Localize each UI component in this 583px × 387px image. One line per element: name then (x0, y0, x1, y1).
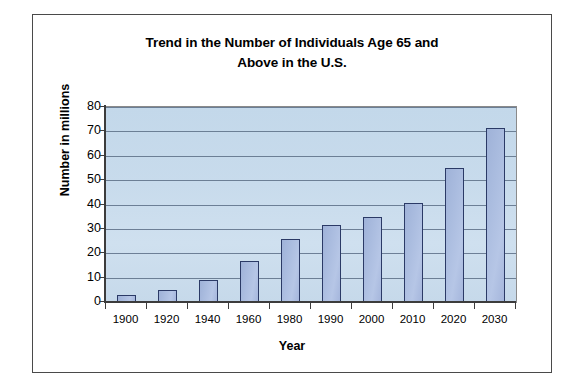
x-axis-tick-label: 2010 (392, 313, 433, 325)
chart-title-line-1: Trend in the Number of Individuals Age 6… (33, 33, 551, 53)
y-axis-tick-mark (99, 204, 104, 205)
y-axis-tick-label: 70 (75, 123, 101, 137)
bar-slot (352, 107, 393, 302)
x-axis-tick-label: 1940 (187, 313, 228, 325)
bar-slot (147, 107, 188, 302)
y-axis-tick-mark (99, 155, 104, 156)
bar-1960[interactable] (240, 261, 259, 302)
y-axis-tick-label: 80 (75, 99, 101, 113)
y-axis-tick-mark (99, 228, 104, 229)
x-axis-tick-mark (269, 303, 270, 309)
y-axis-tick-mark (99, 179, 104, 180)
y-axis-title: Number in millions (58, 65, 72, 215)
bar-2000[interactable] (363, 217, 382, 302)
bar-slot (475, 107, 516, 302)
bar-1940[interactable] (199, 280, 218, 302)
y-axis-tick-label: 20 (75, 245, 101, 259)
x-axis-tick-mark (228, 303, 229, 309)
bar-2010[interactable] (404, 203, 423, 302)
x-axis-tick-mark (105, 303, 106, 309)
bar-slot (106, 107, 147, 302)
x-axis-tick-mark (474, 303, 475, 309)
x-axis-tick-label: 1990 (310, 313, 351, 325)
x-axis-tick-mark (392, 303, 393, 309)
x-axis-title: Year (33, 339, 551, 353)
x-axis-tick-mark (146, 303, 147, 309)
x-axis-tick-label: 1960 (228, 313, 269, 325)
y-axis-tick-mark (99, 252, 104, 253)
y-axis-tick-label: 60 (75, 148, 101, 162)
y-axis-tick-mark (99, 301, 104, 302)
bar-slot (270, 107, 311, 302)
bar-slot (229, 107, 270, 302)
y-axis-tick-label: 0 (75, 294, 101, 308)
x-axis-tick-mark (515, 303, 516, 309)
bar-2020[interactable] (445, 168, 464, 302)
bar-slot (311, 107, 352, 302)
y-axis-tick-mark (99, 130, 104, 131)
x-axis-tick-label: 1900 (105, 313, 146, 325)
bar-1980[interactable] (281, 239, 300, 302)
x-axis-tick-label: 2030 (474, 313, 515, 325)
plot-area (105, 106, 517, 303)
y-axis-tick-labels: 01020304050607080 (69, 106, 101, 301)
bar-2030[interactable] (486, 128, 505, 302)
x-axis-tick-mark (351, 303, 352, 309)
bar-slot (434, 107, 475, 302)
bar-series (106, 107, 516, 302)
y-axis-line (104, 105, 106, 303)
bar-slot (188, 107, 229, 302)
bar-1990[interactable] (322, 225, 341, 302)
y-axis-tick-label: 50 (75, 172, 101, 186)
bar-slot (393, 107, 434, 302)
x-axis-tick-label: 1980 (269, 313, 310, 325)
x-axis-tick-label: 2020 (433, 313, 474, 325)
chart-title: Trend in the Number of Individuals Age 6… (33, 33, 551, 72)
x-axis-tick-label: 2000 (351, 313, 392, 325)
y-axis-tick-mark (99, 277, 104, 278)
y-axis-tick-label: 40 (75, 197, 101, 211)
x-axis-tick-mark (310, 303, 311, 309)
x-axis-tick-mark (433, 303, 434, 309)
chart-frame: Trend in the Number of Individuals Age 6… (32, 14, 552, 373)
x-axis-tick-labels: 1900192019401960198019902000201020202030 (105, 313, 515, 325)
y-axis-tick-label: 30 (75, 221, 101, 235)
chart-title-line-2: Above in the U.S. (33, 53, 551, 73)
x-axis-tick-mark (187, 303, 188, 309)
x-axis-tick-label: 1920 (146, 313, 187, 325)
y-axis-tick-label: 10 (75, 270, 101, 284)
y-axis-tick-mark (99, 106, 104, 107)
